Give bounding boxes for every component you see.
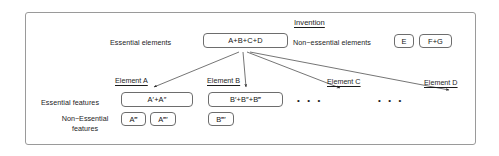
column-header-element-b: Element B (207, 76, 240, 85)
non-essential-features-box-a1: A‴ (121, 112, 146, 126)
non-essential-elements-label: Non−essential elements (293, 38, 371, 47)
non-essential-box-fg: F+G (419, 34, 452, 48)
essential-features-label: Essential features (41, 98, 99, 107)
column-header-element-c: Element C (327, 77, 361, 86)
essential-features-box-b: B′+B″+B‴ (208, 92, 283, 107)
essential-features-box-a: A′+A″ (121, 92, 193, 107)
column-header-element-d: Element D (424, 78, 458, 87)
non-essential-features-box-a2: A‴′ (150, 112, 176, 126)
column-header-element-a: Element A (115, 76, 148, 85)
essential-elements-box: A+B+C+D (203, 33, 288, 48)
non-essential-features-label-line2: features (52, 124, 118, 134)
non-essential-features-label-line1: Non−Essential (52, 114, 118, 124)
ellipsis-element-d: • • • (378, 97, 404, 105)
diagram-title: Invention (294, 18, 325, 27)
diagram-canvas: Invention Essential elements A+B+C+D Non… (0, 0, 499, 156)
essential-elements-label: Essential elements (110, 38, 171, 47)
non-essential-box-e: E (394, 34, 414, 48)
non-essential-features-box-b1: B‴′ (208, 112, 234, 126)
ellipsis-element-c: • • • (297, 97, 323, 105)
